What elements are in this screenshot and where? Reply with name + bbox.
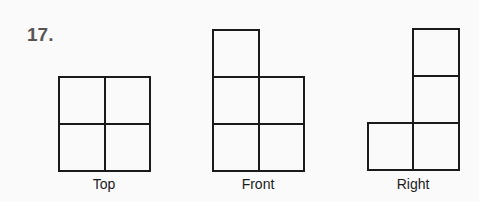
front-cell xyxy=(258,123,305,172)
right-cell xyxy=(412,122,460,171)
top-cell xyxy=(58,123,106,172)
front-cell xyxy=(212,29,260,78)
front-cell xyxy=(258,76,305,125)
top-view-label: Top xyxy=(54,176,154,192)
top-cell xyxy=(58,76,106,125)
right-cell xyxy=(412,75,460,124)
right-cell xyxy=(367,122,414,171)
right-cell xyxy=(412,28,460,77)
front-cell xyxy=(212,76,260,125)
right-view-label: Right xyxy=(363,176,463,192)
front-cell xyxy=(212,123,260,172)
front-view-label: Front xyxy=(208,176,308,192)
top-cell xyxy=(104,76,151,125)
top-cell xyxy=(104,123,151,172)
problem-number: 17. xyxy=(27,24,53,46)
